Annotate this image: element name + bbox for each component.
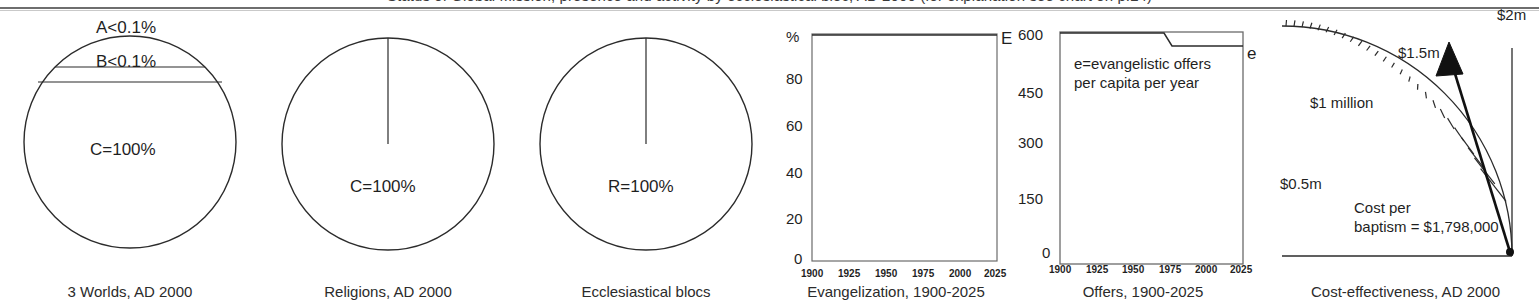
- figure-title: Status of Global Mission, presence and a…: [0, 0, 1539, 4]
- panel-ecclesiastical-blocs: R=100% Ecclesiastical blocs: [516, 12, 776, 304]
- x-tick-1925: 1925: [838, 268, 860, 279]
- label-c: C=100%: [350, 177, 416, 197]
- x-tick-2025: 2025: [984, 268, 1006, 279]
- panel-evangelization: % 80 60 40 20 0 E 1900 1925 1950 1975 20…: [772, 12, 1020, 304]
- gauge-needle-arrowhead: [1436, 42, 1463, 76]
- label-c: C=100%: [90, 140, 156, 160]
- x-tick-1975: 1975: [912, 268, 934, 279]
- gauge-pivot-dot: [1506, 248, 1514, 256]
- x-tick-2000: 2000: [1195, 264, 1217, 275]
- header-rule: [0, 7, 1539, 9]
- x-tick-1900: 1900: [1049, 264, 1071, 275]
- panel-caption: Cost-effectiveness, AD 2000: [1272, 283, 1539, 300]
- panel-caption: Evangelization, 1900-2025: [772, 283, 1020, 300]
- series-label-e: e: [1247, 44, 1256, 64]
- figure-strip: Status of Global Mission, presence and a…: [0, 0, 1539, 304]
- panel-caption: Religions, AD 2000: [258, 283, 518, 300]
- label-b: B<0.1%: [96, 52, 156, 72]
- cost-note-line2: baptism = $1,798,000: [1354, 217, 1499, 236]
- x-tick-2000: 2000: [949, 268, 971, 279]
- x-tick-1975: 1975: [1159, 264, 1181, 275]
- x-tick-1900: 1900: [801, 268, 823, 279]
- panel-three-worlds: A<0.1% B<0.1% C=100% 3 Worlds, AD 2000: [0, 12, 260, 304]
- x-tick-2025: 2025: [1230, 264, 1252, 275]
- panel-cost-effectiveness: $2m $1.5m $1 million $0.5m Cost per bapt…: [1272, 12, 1539, 304]
- series-e-curve: [1060, 33, 1243, 46]
- x-tick-1950: 1950: [1122, 264, 1144, 275]
- evangelization-plot: [772, 22, 1020, 284]
- x-tick-1950: 1950: [875, 268, 897, 279]
- gauge-label-0-5m: $0.5m: [1280, 175, 1322, 192]
- panel-caption: 3 Worlds, AD 2000: [0, 283, 260, 300]
- label-a: A<0.1%: [96, 18, 156, 38]
- header-rule-secondary: [0, 10, 1539, 11]
- gauge-label-1-5m: $1.5m: [1398, 44, 1440, 61]
- panel-offers: 600 450 300 150 0 e e=evangelistic offer…: [1012, 12, 1274, 304]
- x-tick-1925: 1925: [1086, 264, 1108, 275]
- series-label-E: E: [1001, 29, 1012, 49]
- panel-caption: Ecclesiastical blocs: [516, 283, 776, 300]
- panel-religions: C=100% Religions, AD 2000: [258, 12, 518, 304]
- ecclesiastical-blocs-pie-diagram: [516, 22, 776, 284]
- panel-caption: Offers, 1900-2025: [1012, 283, 1274, 300]
- religions-pie-diagram: [258, 22, 518, 284]
- plot-frame: [812, 34, 997, 261]
- offers-annotation-line1: e=evangelistic offers: [1074, 54, 1211, 73]
- cost-note-line1: Cost per: [1354, 198, 1411, 217]
- gauge-label-2m: $2m: [1497, 6, 1526, 23]
- label-r: R=100%: [608, 177, 674, 197]
- gauge-label-1-million: $1 million: [1310, 94, 1373, 111]
- offers-annotation-line2: per capita per year: [1074, 73, 1199, 92]
